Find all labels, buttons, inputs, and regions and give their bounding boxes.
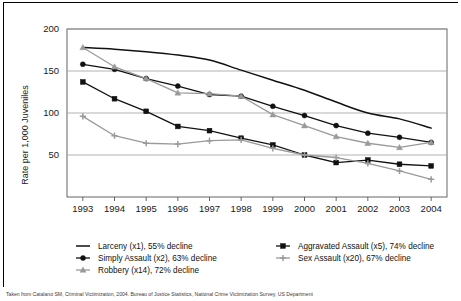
data-point-3: [175, 124, 180, 129]
source-caption: Taken from Catalano SM, Criminal Victimi…: [6, 291, 458, 301]
x-tick-label-2001: 2001: [326, 203, 347, 214]
data-point-3: [175, 84, 180, 89]
y-tick-label-100: 100: [43, 107, 59, 118]
x-tick-label-1997: 1997: [199, 203, 220, 214]
data-point-0: [80, 62, 85, 67]
data-point-10: [397, 162, 402, 167]
x-tick-label-1995: 1995: [136, 203, 157, 214]
data-point-6: [270, 104, 275, 109]
y-axis-title-text: Rate per 1,000 Juveniles: [20, 85, 30, 185]
x-tick-label-2000: 2000: [294, 203, 315, 214]
data-point-4: [207, 128, 212, 133]
data-point-8: [334, 123, 339, 128]
data-point-10: [397, 135, 402, 140]
data-point-1: [112, 96, 117, 101]
x-tick-label-2004: 2004: [421, 203, 442, 214]
figure-frame: Rate per 1,000 Juveniles 200 150 100 50 …: [3, 2, 458, 287]
legend-label: Simply Assault (x2), 63% decline: [98, 254, 217, 263]
x-tick-label-1999: 1999: [262, 203, 283, 214]
legend-marker: [281, 244, 286, 249]
legend-label: Aggravated Assault (x5), 74% decline: [298, 242, 435, 251]
data-point-2: [144, 109, 149, 114]
data-point-0: [80, 80, 85, 85]
y-axis-title: Rate per 1,000 Juveniles: [20, 85, 30, 185]
data-point-8: [334, 160, 339, 165]
y-tick-label-200: 200: [43, 23, 59, 34]
x-tick-label-1993: 1993: [72, 203, 93, 214]
legend-label: Larceny (x1), 55% decline: [98, 242, 193, 251]
data-point-7: [302, 113, 307, 118]
data-point-11: [429, 164, 434, 169]
x-tick-label-2003: 2003: [389, 203, 410, 214]
line-chart: Rate per 1,000 Juveniles 200 150 100 50 …: [4, 3, 459, 288]
x-tick-label-2002: 2002: [357, 203, 378, 214]
y-tick-label-150: 150: [43, 65, 59, 76]
legend-label: Robbery (x14), 72% decline: [98, 266, 199, 275]
legend-item-3[interactable]: Aggravated Assault (x5), 74% decline: [276, 242, 435, 251]
y-tick-label-50: 50: [48, 149, 59, 160]
legend-label: Sex Assault (x20), 67% decline: [298, 254, 411, 263]
data-point-9: [365, 131, 370, 136]
legend-marker: [81, 256, 86, 261]
x-tick-label-1994: 1994: [104, 203, 125, 214]
legend-item-1[interactable]: Simply Assault (x2), 63% decline: [76, 254, 217, 263]
x-tick-label-1998: 1998: [231, 203, 252, 214]
x-tick-label-1996: 1996: [167, 203, 188, 214]
